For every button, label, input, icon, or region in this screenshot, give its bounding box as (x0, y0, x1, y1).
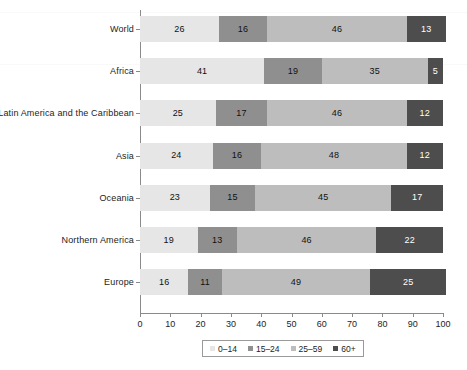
category-label: Northern America (62, 235, 134, 245)
bar-segment-value: 15 (227, 193, 237, 202)
category-label: Africa (110, 66, 134, 76)
bar-segment[interactable]: 13 (407, 16, 446, 42)
bar-segment-value: 24 (171, 151, 181, 160)
legend-item[interactable]: 0–14 (210, 344, 237, 354)
bar-segment[interactable]: 19 (140, 227, 198, 253)
x-axis-tick-label: 80 (377, 319, 387, 329)
bar-segment[interactable]: 49 (222, 269, 370, 295)
bar-segment-value: 13 (421, 25, 431, 34)
legend-label: 60+ (341, 344, 355, 354)
bar-segment[interactable]: 46 (267, 100, 406, 126)
bar-segment-value: 25 (173, 109, 183, 118)
x-axis-tick-label: 60 (317, 319, 327, 329)
x-axis-tick-label: 70 (347, 319, 357, 329)
x-axis-tick-label: 50 (286, 319, 296, 329)
legend-label: 0–14 (218, 344, 237, 354)
bar-segment-value: 35 (370, 67, 380, 76)
bar-row: Asia24164812 (140, 143, 443, 169)
legend-item[interactable]: 60+ (333, 344, 355, 354)
bar-segment[interactable]: 25 (140, 100, 216, 126)
bar-row: Latin America and the Caribbean25174612 (140, 100, 443, 126)
x-axis-tick-label: 40 (256, 319, 266, 329)
bar-segment-value: 19 (164, 236, 174, 245)
x-axis-tick (382, 313, 383, 317)
bar-segment[interactable]: 45 (255, 185, 391, 211)
category-label: World (110, 24, 134, 34)
plot-area: World26164613Africa4119355Latin America … (140, 10, 443, 312)
legend-swatch-icon (248, 346, 253, 351)
bar-segment-value: 16 (232, 151, 242, 160)
bar-segment-value: 48 (329, 151, 339, 160)
stacked-bar[interactable]: 24164812 (140, 143, 443, 169)
bar-segment[interactable]: 15 (210, 185, 255, 211)
bar-segment[interactable]: 23 (140, 185, 210, 211)
bar-segment-value: 26 (174, 25, 184, 34)
bar-segment-value: 16 (238, 25, 248, 34)
chart-legend: 0–1415–2425–5960+ (202, 340, 364, 357)
bar-segment-value: 19 (288, 67, 298, 76)
bar-segment-value: 17 (412, 193, 422, 202)
bar-row: Oceania23154517 (140, 185, 443, 211)
legend-item[interactable]: 25–59 (291, 344, 323, 354)
bar-segment[interactable]: 12 (407, 143, 443, 169)
bar-segment-value: 12 (420, 151, 430, 160)
x-axis-tick (231, 313, 232, 317)
x-axis-tick (170, 313, 171, 317)
x-axis-tick-label: 30 (226, 319, 236, 329)
stacked-bar[interactable]: 19134622 (140, 227, 443, 253)
bar-segment[interactable]: 46 (267, 16, 406, 42)
bar-segment-value: 45 (318, 193, 328, 202)
legend-item[interactable]: 15–24 (248, 344, 280, 354)
x-axis-tick (413, 313, 414, 317)
stacked-bar-chart: World26164613Africa4119355Latin America … (0, 0, 467, 370)
x-axis-tick (292, 313, 293, 317)
bar-segment[interactable]: 16 (213, 143, 261, 169)
bar-segment[interactable]: 25 (370, 269, 446, 295)
bar-segment[interactable]: 24 (140, 143, 213, 169)
x-axis-tick-label: 0 (137, 319, 142, 329)
stacked-bar[interactable]: 26164613 (140, 16, 446, 42)
legend-swatch-icon (291, 346, 296, 351)
x-axis-tick (261, 313, 262, 317)
stacked-bar[interactable]: 4119355 (140, 58, 443, 84)
bar-segment-value: 25 (403, 278, 413, 287)
stacked-bar[interactable]: 16114925 (140, 269, 446, 295)
bar-segment[interactable]: 17 (391, 185, 443, 211)
bar-segment[interactable]: 13 (198, 227, 237, 253)
legend-swatch-icon (210, 346, 215, 351)
bar-segment[interactable]: 22 (376, 227, 443, 253)
category-label: Asia (116, 151, 134, 161)
legend-swatch-icon (333, 346, 338, 351)
bar-segment[interactable]: 12 (407, 100, 443, 126)
legend-label: 25–59 (299, 344, 323, 354)
bar-segment-value: 46 (332, 109, 342, 118)
bar-segment[interactable]: 5 (428, 58, 443, 84)
category-label: Oceania (99, 193, 134, 203)
x-axis-tick (352, 313, 353, 317)
bar-segment[interactable]: 16 (140, 269, 188, 295)
category-label: Europe (104, 277, 134, 287)
bar-segment-value: 23 (170, 193, 180, 202)
bar-segment[interactable]: 17 (216, 100, 268, 126)
bar-segment[interactable]: 19 (264, 58, 322, 84)
bar-segment[interactable]: 41 (140, 58, 264, 84)
x-axis-tick-label: 90 (408, 319, 418, 329)
bar-segment[interactable]: 26 (140, 16, 219, 42)
bar-segment[interactable]: 11 (188, 269, 221, 295)
bar-segment[interactable]: 46 (237, 227, 376, 253)
category-label: Latin America and the Caribbean (0, 108, 134, 118)
bar-segment-value: 16 (159, 278, 169, 287)
legend-label: 15–24 (256, 344, 280, 354)
x-axis-tick-label: 10 (165, 319, 175, 329)
x-axis-tick (322, 313, 323, 317)
bar-segment-value: 5 (433, 67, 438, 76)
x-axis-tick (140, 313, 141, 317)
bar-row: Northern America19134622 (140, 227, 443, 253)
bar-segment-value: 46 (301, 236, 311, 245)
stacked-bar[interactable]: 25174612 (140, 100, 443, 126)
bar-segment[interactable]: 48 (261, 143, 406, 169)
bar-segment[interactable]: 16 (219, 16, 267, 42)
stacked-bar[interactable]: 23154517 (140, 185, 443, 211)
bar-row: Europe16114925 (140, 269, 443, 295)
bar-segment[interactable]: 35 (322, 58, 428, 84)
